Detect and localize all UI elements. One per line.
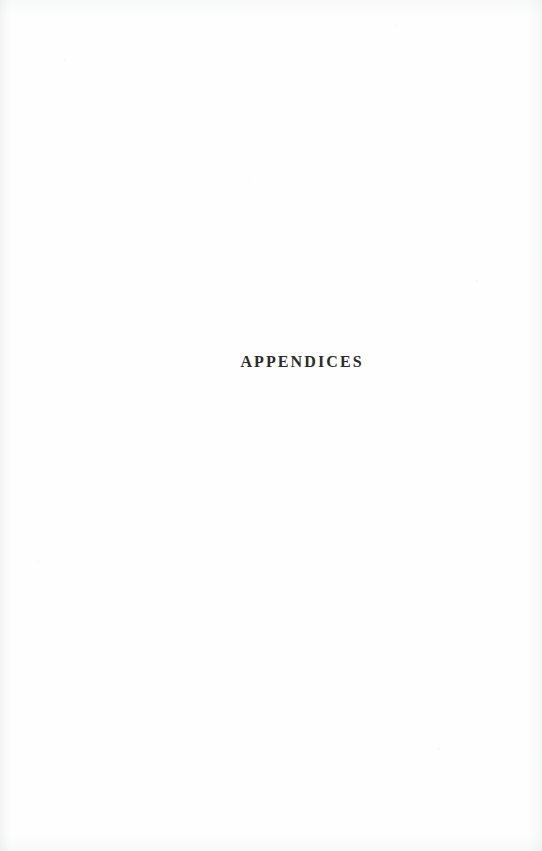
section-divider-title-block: APPENDICES — [0, 352, 542, 371]
paper-speckle-overlay — [0, 0, 542, 851]
paper-grain-overlay — [0, 0, 542, 851]
page-title: APPENDICES — [238, 352, 363, 371]
scanned-page: APPENDICES — [0, 0, 542, 851]
